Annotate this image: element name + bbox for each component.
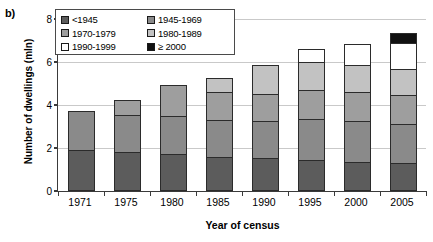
bar-segment	[114, 152, 141, 191]
bar-segment	[298, 160, 325, 191]
bar-segment	[390, 124, 417, 164]
bar-segment	[344, 65, 371, 93]
x-axis-tick-mark	[150, 191, 151, 196]
bar-segment	[206, 157, 233, 191]
legend-item: 1945-1969	[147, 13, 229, 27]
bar-segment	[68, 111, 95, 151]
bar-segment	[344, 121, 371, 163]
panel-label: b)	[5, 7, 15, 19]
bar-segment	[206, 78, 233, 93]
bar-stack	[252, 65, 279, 191]
legend-label: <1945	[72, 14, 98, 25]
legend-label: ≥ 2000	[158, 41, 186, 52]
x-axis-tick-mark	[426, 191, 427, 196]
x-axis-tick-label: 2005	[390, 196, 413, 208]
bar-segment	[252, 121, 279, 159]
x-axis-title: Year of census	[55, 219, 430, 231]
x-axis-tick-mark	[380, 191, 381, 196]
legend-swatch-icon	[147, 43, 155, 51]
bar-segment	[298, 62, 325, 91]
x-axis-tick-mark	[196, 191, 197, 196]
bar-segment	[298, 119, 325, 161]
x-axis-tick-mark	[242, 191, 243, 196]
x-axis-tick-label: 1980	[160, 196, 183, 208]
bar-segment	[344, 162, 371, 191]
x-axis-tick-mark	[58, 191, 59, 196]
bar-segment	[390, 43, 417, 70]
bar-stack	[298, 49, 325, 191]
bar-segment	[114, 100, 141, 116]
bar-stack	[114, 100, 141, 191]
legend-swatch-icon	[61, 43, 69, 51]
bar-stack	[68, 111, 95, 191]
x-axis-tick-label: 1990	[252, 196, 275, 208]
bar-segment	[68, 150, 95, 191]
legend-swatch-icon	[147, 16, 155, 24]
bar-segment	[160, 85, 187, 117]
x-axis-tick-label: 1975	[114, 196, 137, 208]
legend: <19451945-19691970-19791980-19891990-199…	[55, 9, 235, 55]
legend-item: ≥ 2000	[147, 40, 229, 54]
x-axis-tick-label: 1971	[68, 196, 91, 208]
bar-segment	[390, 95, 417, 125]
bar-segment	[252, 94, 279, 122]
bar-stack	[344, 44, 371, 191]
legend-swatch-icon	[61, 29, 69, 37]
x-axis-tick-label: 2000	[344, 196, 367, 208]
bar-segment	[390, 69, 417, 96]
x-axis-tick-label: 1995	[298, 196, 321, 208]
chart-figure: b) Number of dwellings (mln) 02468 19711…	[0, 0, 433, 242]
legend-label: 1945-1969	[158, 14, 202, 25]
bar-segment	[344, 44, 371, 66]
legend-label: 1970-1979	[72, 28, 116, 39]
legend-label: 1980-1989	[158, 28, 202, 39]
bar-segment	[252, 158, 279, 191]
x-axis-tick-label: 1985	[206, 196, 229, 208]
legend-swatch-icon	[147, 29, 155, 37]
bar-segment	[114, 115, 141, 153]
legend-item: 1970-1979	[61, 27, 143, 41]
x-axis-tick-mark	[334, 191, 335, 196]
bar-segment	[344, 92, 371, 122]
bar-segment	[298, 49, 325, 63]
legend-item: 1990-1999	[61, 40, 143, 54]
x-axis-tick-mark	[104, 191, 105, 196]
bar-stack	[390, 33, 417, 191]
legend-swatch-icon	[61, 16, 69, 24]
legend-item: 1980-1989	[147, 27, 229, 41]
bar-segment	[390, 163, 417, 191]
bar-segment	[252, 65, 279, 95]
bar-stack	[160, 85, 187, 191]
bar-segment	[298, 90, 325, 120]
bar-segment	[160, 154, 187, 191]
legend-label: 1990-1999	[72, 41, 116, 52]
x-axis-tick-mark	[288, 191, 289, 196]
bar-segment	[206, 92, 233, 121]
bar-segment	[206, 120, 233, 158]
bar-segment	[160, 116, 187, 155]
bar-stack	[206, 78, 233, 191]
legend-item: <1945	[61, 13, 143, 27]
